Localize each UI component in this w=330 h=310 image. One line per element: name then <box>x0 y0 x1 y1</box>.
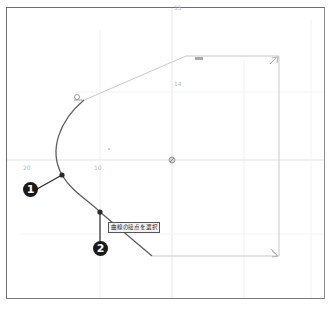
corner-marker-icon <box>270 57 278 64</box>
callout-badge-1: 1 <box>23 182 38 197</box>
sketch-drawing[interactable] <box>0 0 330 310</box>
axis-tick-label: 10 <box>94 164 102 171</box>
axis-tick-label: 15 <box>174 4 182 11</box>
sketch-point <box>108 148 110 150</box>
axis-tick-label: 20 <box>23 164 31 171</box>
axis-tick-label: 14 <box>174 80 182 87</box>
origin-icon <box>169 157 175 163</box>
selection-tooltip: 曲線の接点を選択 <box>108 222 160 233</box>
callout-badge-2: 2 <box>93 241 108 256</box>
callout-leader-1 <box>37 175 62 189</box>
dimension-marker <box>195 57 203 60</box>
tangent-constraint-icon <box>74 95 82 101</box>
